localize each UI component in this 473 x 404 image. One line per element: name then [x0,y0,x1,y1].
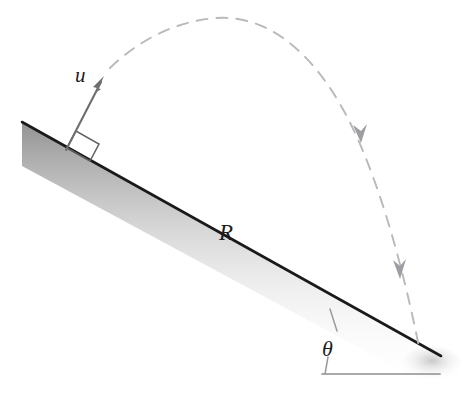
incline-group [22,122,462,392]
incline-shadow [22,122,441,392]
physics-diagram-inclined-projectile: u R θ [0,0,473,404]
range-label: R [218,220,233,245]
velocity-vector-shaft [66,82,101,150]
velocity-label: u [75,63,86,87]
velocity-vector-arrowhead-icon [93,76,104,92]
trajectory-group [110,18,419,347]
diagram-canvas: u R θ [0,0,473,404]
velocity-vector-group [66,76,104,161]
trajectory-path [110,18,419,347]
angle-label: θ [322,336,333,361]
